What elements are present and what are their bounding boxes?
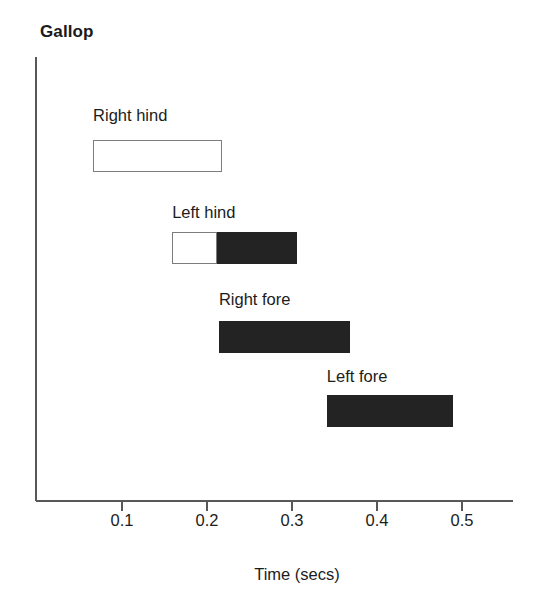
bar-segment-open <box>172 232 217 264</box>
bar-left-hind <box>172 232 297 264</box>
bar-left-fore <box>327 395 453 427</box>
bar-segment-filled <box>327 395 453 427</box>
x-tick-label-0.5: 0.5 <box>451 512 474 529</box>
x-axis-title: Time (secs) <box>254 566 340 583</box>
x-tick-label-0.2: 0.2 <box>196 512 219 529</box>
bar-segment-filled <box>219 321 350 353</box>
x-tick-label-0.3: 0.3 <box>281 512 304 529</box>
gallop-gait-chart: Gallop Right hindLeft hindRight foreLeft… <box>0 0 540 610</box>
bar-segment-open <box>93 140 222 172</box>
bar-segment-filled <box>217 232 297 264</box>
bar-label-left-hind: Left hind <box>172 204 235 221</box>
bar-right-fore <box>219 321 350 353</box>
bar-label-right-hind: Right hind <box>93 107 167 124</box>
bar-label-left-fore: Left fore <box>327 368 388 385</box>
bar-label-right-fore: Right fore <box>219 291 291 308</box>
x-tick-label-0.1: 0.1 <box>111 512 134 529</box>
chart-title: Gallop <box>40 22 94 42</box>
bar-right-hind <box>93 140 222 172</box>
x-tick-label-0.4: 0.4 <box>366 512 389 529</box>
